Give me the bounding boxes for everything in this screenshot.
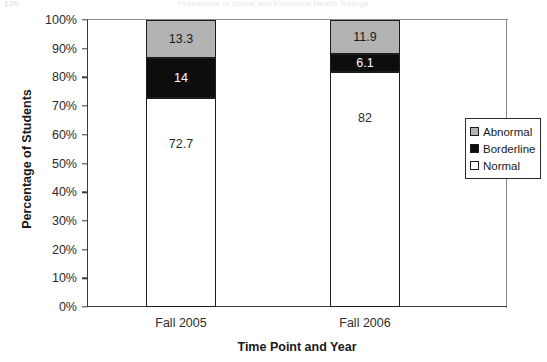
y-axis-tick-label: 10% bbox=[33, 271, 77, 285]
legend-item-normal: Normal bbox=[470, 157, 537, 174]
bar-segment-value: 11.9 bbox=[353, 30, 376, 44]
bar-segment-value: 82 bbox=[358, 111, 372, 125]
y-axis-tick-label: 20% bbox=[33, 243, 77, 257]
y-axis-tick-label: 90% bbox=[33, 42, 77, 56]
bar-segment-value: 13.3 bbox=[169, 32, 193, 46]
y-axis-tick-label: 80% bbox=[33, 70, 77, 84]
y-axis-title: Percentage of Students bbox=[20, 64, 34, 254]
legend-swatch-abnormal-icon bbox=[470, 127, 479, 136]
bar-segment-value: 14 bbox=[174, 71, 188, 85]
x-axis-title: Time Point and Year bbox=[87, 340, 507, 354]
y-axis-tick-label: 60% bbox=[33, 128, 77, 142]
chart-legend: Abnormal Borderline Normal bbox=[465, 118, 541, 179]
x-axis-tick-label: Fall 2005 bbox=[111, 316, 251, 330]
stacked-bar-chart: 0%10%20%30%40%50%60%70%80%90%100% Percen… bbox=[0, 0, 547, 362]
y-axis-tick-label: 0% bbox=[33, 300, 77, 314]
y-axis-tick-label: 30% bbox=[33, 214, 77, 228]
bar-segment-value: 6.1 bbox=[356, 56, 373, 70]
x-axis-tick-label: Fall 2006 bbox=[295, 316, 435, 330]
y-axis-tick-label: 50% bbox=[33, 157, 77, 171]
bar-segment-value: 72.7 bbox=[169, 137, 193, 151]
bar-segment-normal: 72.7 bbox=[146, 98, 216, 307]
y-axis-tick-label: 40% bbox=[33, 185, 77, 199]
bar-column: 13.31472.7 bbox=[146, 0, 216, 362]
legend-label-normal: Normal bbox=[483, 160, 520, 172]
legend-label-abnormal: Abnormal bbox=[483, 126, 532, 138]
bar-segment-borderline: 6.1 bbox=[330, 54, 400, 72]
bar-column: 11.96.182 bbox=[330, 0, 400, 362]
bar-segment-abnormal: 11.9 bbox=[330, 20, 400, 54]
legend-label-borderline: Borderline bbox=[483, 143, 535, 155]
y-axis-tick-label: 100% bbox=[33, 13, 77, 27]
legend-item-abnormal: Abnormal bbox=[470, 123, 537, 140]
y-axis-tick-labels: 0%10%20%30%40%50%60%70%80%90%100% bbox=[33, 0, 77, 362]
legend-swatch-borderline-icon bbox=[470, 144, 479, 153]
legend-item-borderline: Borderline bbox=[470, 140, 537, 157]
bar-segment-borderline: 14 bbox=[146, 58, 216, 98]
bar-segment-abnormal: 13.3 bbox=[146, 20, 216, 58]
bar-segment-normal: 82 bbox=[330, 72, 400, 307]
legend-swatch-normal-icon bbox=[470, 161, 479, 170]
y-axis-tick-label: 70% bbox=[33, 99, 77, 113]
